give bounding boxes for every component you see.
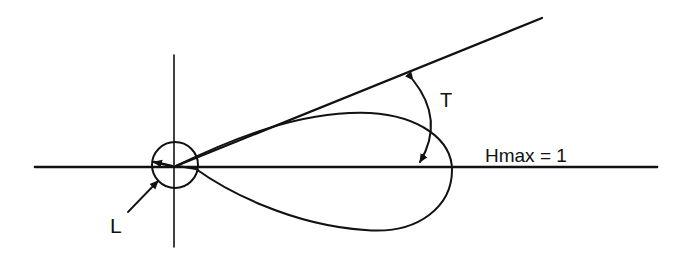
origin-circle xyxy=(152,142,198,188)
angle-arc-T xyxy=(413,80,431,162)
tangent-line xyxy=(176,18,542,166)
radiation-pattern-diagram: T Hmax = 1 L xyxy=(0,0,680,266)
radiation-lobe xyxy=(176,113,452,231)
diagram-canvas: T Hmax = 1 L xyxy=(0,0,680,266)
inner-arrow xyxy=(154,162,172,166)
label-loss-circle: L xyxy=(110,214,122,237)
pointer-arrow-L xyxy=(128,181,158,212)
label-takeoff-angle: T xyxy=(440,89,452,111)
label-max-gain: Hmax = 1 xyxy=(485,145,567,166)
